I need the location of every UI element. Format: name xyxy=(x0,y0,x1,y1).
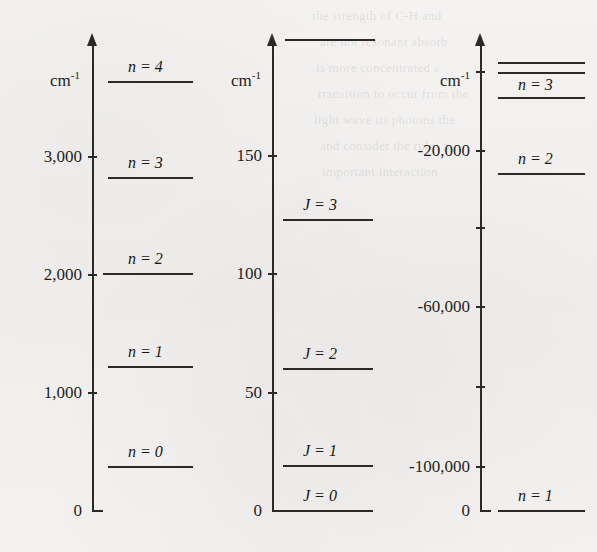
unit-label-vibrational: cm-1 xyxy=(0,69,80,91)
energy-level-label-j2: J = 2 xyxy=(303,345,337,363)
axis-foot-rotational xyxy=(272,510,283,512)
energy-level-label-j3: J = 3 xyxy=(303,196,337,214)
energy-level-line-j1 xyxy=(283,465,373,467)
axis-tick-vibrational-3000 xyxy=(88,156,97,158)
axis-tick-label-electronic-100000: -100,000 xyxy=(382,457,470,477)
axis-tick-electronic-minor-top xyxy=(476,71,485,73)
axis-tick-label-electronic-60000: -60,000 xyxy=(382,297,470,317)
axis-tick-label-vibrational-2000: 2,000 xyxy=(0,265,82,285)
axis-tick-label-electronic-20000: -20,000 xyxy=(382,141,470,161)
energy-level-label-n3: n = 3 xyxy=(128,154,163,172)
energy-level-line-n3 xyxy=(108,177,193,179)
energy-level-line-n0 xyxy=(108,466,193,468)
energy-level-line-electronic-n2 xyxy=(498,173,585,175)
energy-level-line-electronic-n3 xyxy=(498,97,585,99)
energy-level-line-electronic-n4 xyxy=(498,72,585,74)
axis-tick-electronic-80000 xyxy=(476,386,485,388)
axis-tick-label-rotational-0: 0 xyxy=(195,501,262,521)
energy-level-line-n4 xyxy=(108,81,193,83)
axis-line-vibrational xyxy=(92,45,94,511)
energy-level-label-electronic-n1: n = 1 xyxy=(518,487,553,505)
axis-tick-electronic-60000 xyxy=(476,306,485,308)
energy-level-line-j4 xyxy=(285,39,375,41)
axis-tick-label-vibrational-1000: 1,000 xyxy=(0,383,82,403)
unit-label-exponent: -1 xyxy=(461,69,470,81)
axis-tick-label-vibrational-0: 0 xyxy=(0,501,82,521)
axis-foot-electronic xyxy=(480,510,491,512)
unit-label-text: cm xyxy=(50,71,71,90)
axis-line-electronic xyxy=(480,45,482,511)
energy-level-line-n2 xyxy=(103,273,193,275)
energy-level-label-n4: n = 4 xyxy=(128,58,163,76)
unit-label-exponent: -1 xyxy=(252,69,261,81)
energy-level-label-n0: n = 0 xyxy=(128,443,163,461)
axis-tick-rotational-100 xyxy=(268,273,277,275)
energy-level-label-j0: J = 0 xyxy=(303,487,337,505)
energy-level-label-n1: n = 1 xyxy=(128,343,163,361)
unit-label-rotational: cm-1 xyxy=(195,69,261,91)
energy-level-line-n1 xyxy=(108,366,193,368)
energy-level-line-j0 xyxy=(283,510,373,512)
axis-foot-vibrational xyxy=(92,510,103,512)
axis-tick-label-vibrational-3000: 3,000 xyxy=(0,147,82,167)
axis-tick-electronic-20000 xyxy=(476,150,485,152)
panel-electronic: cm-1 -20,000 -60,000 -100,000 0 n = 3 n … xyxy=(390,0,597,552)
panel-rotational: cm-1 150 100 50 0 J = 3 J = 2 J = 1 J = … xyxy=(195,0,395,552)
energy-level-label-electronic-n3: n = 3 xyxy=(518,76,553,94)
axis-tick-label-rotational-50: 50 xyxy=(195,383,262,403)
axis-tick-vibrational-2000 xyxy=(88,274,97,276)
axis-tick-rotational-150 xyxy=(268,155,277,157)
axis-line-rotational xyxy=(272,45,274,511)
unit-label-electronic: cm-1 xyxy=(390,69,470,91)
axis-tick-label-rotational-100: 100 xyxy=(195,264,262,284)
energy-level-line-electronic-n5 xyxy=(498,62,585,64)
axis-tick-label-rotational-150: 150 xyxy=(195,146,262,166)
axis-tick-electronic-100000 xyxy=(476,466,485,468)
axis-tick-vibrational-1000 xyxy=(88,392,97,394)
energy-level-line-j3 xyxy=(283,219,373,221)
panel-vibrational: cm-1 3,000 2,000 1,000 0 n = 4 n = 3 n =… xyxy=(0,0,200,552)
unit-label-text: cm xyxy=(440,71,461,90)
energy-level-label-electronic-n2: n = 2 xyxy=(518,150,553,168)
unit-label-exponent: -1 xyxy=(71,69,80,81)
energy-level-line-j2 xyxy=(283,368,373,370)
energy-level-label-j1: J = 1 xyxy=(303,442,337,460)
energy-level-label-n2: n = 2 xyxy=(128,250,163,268)
axis-tick-electronic-40000 xyxy=(476,227,485,229)
unit-label-text: cm xyxy=(231,71,252,90)
energy-level-line-electronic-n1 xyxy=(498,510,585,512)
axis-tick-label-electronic-0: 0 xyxy=(382,501,470,521)
axis-tick-rotational-50 xyxy=(268,392,277,394)
